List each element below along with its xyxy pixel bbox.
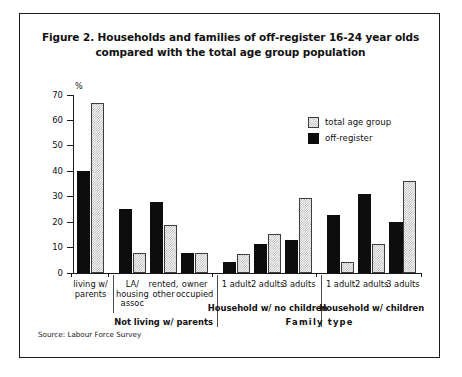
x-axis-tick-start: [71, 273, 72, 277]
y-axis-tick-label-30: 30: [35, 192, 63, 200]
y-axis-tick-60: [67, 120, 73, 121]
bar-off-register-2: [150, 202, 163, 273]
y-axis-tick-0: [67, 273, 73, 274]
x-axis-super-label: Family type: [260, 317, 380, 327]
y-axis-tick-30: [67, 196, 73, 197]
y-axis-tick-label-0: 0: [35, 269, 63, 277]
x-axis-group-label-3: Household w/ children: [312, 303, 432, 313]
bar-total-age-group-0: [91, 103, 104, 273]
y-axis-tick-label-40: 40: [35, 167, 63, 175]
bar-off-register-0: [77, 171, 90, 273]
legend-item-total-age-group: total age group: [308, 114, 391, 130]
y-axis-tick-label-50: 50: [35, 141, 63, 149]
bar-total-age-group-1: [133, 253, 146, 273]
y-axis-tick-label-60: 60: [35, 116, 63, 124]
bar-total-age-group-2: [164, 225, 177, 273]
x-axis-group-label-1: Not living w/ parents: [104, 317, 224, 327]
y-axis-tick-10: [67, 247, 73, 248]
x-axis-group-label-2: Household w/ no children: [208, 303, 328, 313]
chart-legend: total age group off-register: [308, 114, 391, 146]
bar-total-age-group-9: [403, 181, 416, 273]
x-axis-category-label-9: 3 adults: [377, 280, 429, 290]
x-axis-tick-0: [108, 273, 109, 277]
x-axis-line: [73, 273, 422, 274]
legend-label-off-register: off-register: [325, 133, 372, 143]
y-axis-tick-label-20: 20: [35, 218, 63, 226]
bar-total-age-group-3: [195, 253, 208, 273]
y-axis-tick-70: [67, 95, 73, 96]
x-axis-tick-1: [212, 273, 213, 277]
bar-off-register-7: [327, 215, 340, 273]
bar-total-age-group-7: [341, 262, 354, 273]
y-axis-tick-label-70: 70: [35, 91, 63, 99]
y-axis-tick-20: [67, 222, 73, 223]
legend-swatch-solid-icon: [308, 133, 319, 144]
bar-off-register-3: [181, 253, 194, 273]
y-axis-tick-40: [67, 171, 73, 172]
bar-off-register-5: [254, 244, 267, 273]
bar-off-register-6: [285, 240, 298, 273]
x-axis-category-line: assoc: [106, 299, 158, 309]
figure-frame: Figure 2. Households and families of off…: [19, 13, 440, 358]
legend-item-off-register: off-register: [308, 130, 391, 146]
legend-label-total-age-group: total age group: [325, 117, 391, 127]
y-axis-tick-50: [67, 145, 73, 146]
bar-total-age-group-4: [237, 254, 250, 273]
bar-total-age-group-8: [372, 244, 385, 273]
legend-swatch-hatched-icon: [308, 117, 319, 128]
x-axis-category-line: occupied: [169, 290, 221, 300]
x-axis-tick-3: [421, 273, 422, 277]
bar-off-register-8: [358, 194, 371, 273]
bar-total-age-group-5: [268, 234, 281, 273]
y-axis-tick-label-10: 10: [35, 243, 63, 251]
x-axis-tick-2: [316, 273, 317, 277]
bar-off-register-4: [223, 262, 236, 273]
source-note: Source: Labour Force Survey: [38, 330, 141, 339]
bar-off-register-9: [389, 222, 402, 273]
y-axis-unit-label: %: [75, 82, 83, 91]
x-axis-category-line: 3 adults: [377, 280, 429, 290]
bar-total-age-group-6: [299, 198, 312, 273]
chart-plot-wrapper: % 010203040506070 living w/parentsLA/hou…: [20, 14, 441, 359]
bar-off-register-1: [119, 209, 132, 273]
